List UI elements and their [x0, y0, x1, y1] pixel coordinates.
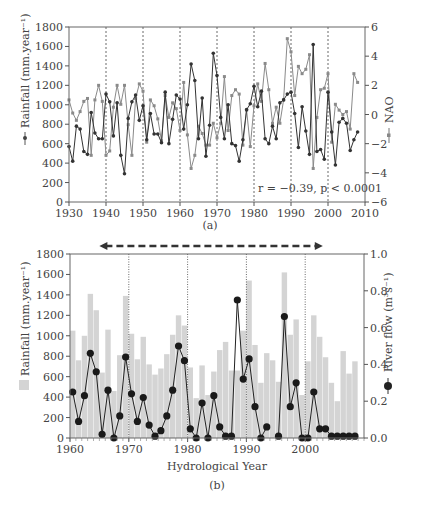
data-point [308, 53, 311, 56]
y2-tick-label: 0 [371, 109, 378, 122]
data-point [249, 145, 252, 148]
data-point [215, 74, 219, 78]
y-tick-label: 600 [43, 371, 64, 384]
data-point [182, 81, 185, 84]
x-tick-label: 1990 [277, 207, 305, 220]
y2-tick-label: 2 [371, 79, 378, 92]
data-point [253, 104, 256, 107]
y-tick-label: 1600 [36, 268, 64, 281]
data-point [140, 394, 147, 401]
data-point [208, 123, 212, 127]
y-tick-label: 1200 [36, 309, 64, 322]
data-point [290, 50, 293, 53]
data-point [167, 116, 170, 119]
rainfall-bar [70, 331, 75, 438]
data-point [240, 376, 247, 383]
data-point [134, 418, 141, 425]
data-point [356, 81, 359, 84]
y2-tick-label: −2 [371, 138, 387, 151]
data-point [204, 155, 208, 159]
rainfall-bar [135, 359, 140, 438]
data-point [246, 355, 253, 362]
arrow-right-head-icon [315, 242, 323, 250]
x-tick-label: 1970 [115, 443, 143, 456]
data-point [304, 129, 308, 133]
data-point [345, 121, 349, 125]
data-point [193, 154, 196, 157]
data-point [93, 131, 97, 135]
rainfall-bars [70, 272, 358, 438]
y-tick-label: 1800 [36, 248, 64, 261]
data-point [149, 112, 153, 116]
y-tick-label: 200 [43, 412, 64, 425]
data-point [297, 65, 300, 68]
rainfall-bar [82, 336, 87, 438]
data-point [251, 403, 258, 410]
data-point [71, 112, 74, 115]
data-point [212, 51, 216, 55]
rainfall-bar [335, 401, 340, 438]
data-point [90, 154, 93, 157]
data-point [234, 296, 241, 303]
rainfall-bar [241, 331, 246, 438]
data-point [315, 150, 319, 154]
data-point [153, 104, 156, 107]
data-point [142, 90, 145, 93]
data-point [300, 105, 304, 109]
data-point [216, 423, 223, 430]
data-point [212, 122, 215, 125]
x-axis-title-b: Hydrological Year [167, 460, 268, 473]
data-point [167, 142, 171, 146]
data-point [116, 412, 123, 419]
data-point [93, 98, 96, 101]
x-tick-label: 1990 [232, 443, 260, 456]
data-point [286, 92, 290, 96]
data-point [126, 117, 130, 121]
data-point [171, 118, 175, 122]
rainfall-bar [76, 360, 81, 438]
y2-tick-label: −6 [371, 196, 387, 209]
data-point [263, 423, 270, 430]
rainfall-bar [317, 337, 322, 438]
rainfall-series-a [67, 43, 359, 176]
data-point [82, 150, 86, 154]
data-point [256, 105, 260, 109]
data-point [345, 110, 348, 113]
data-point [108, 149, 111, 152]
data-point [249, 102, 253, 106]
data-point [122, 353, 129, 360]
x-tick-label: 1980 [240, 207, 268, 220]
data-point [128, 390, 135, 397]
data-point [157, 427, 164, 434]
data-point [274, 137, 278, 141]
data-point [334, 163, 338, 167]
y2-tick-label: 4 [371, 50, 378, 63]
period-arrow [99, 242, 322, 250]
data-point [304, 68, 307, 71]
data-point [115, 101, 119, 105]
data-point [119, 154, 123, 158]
data-point [156, 117, 159, 120]
data-point [267, 88, 270, 91]
data-point [230, 142, 234, 146]
y2-tick-label: 1.0 [370, 248, 388, 261]
data-point [123, 84, 126, 87]
data-point [156, 132, 160, 136]
data-point [175, 93, 179, 97]
data-point [341, 113, 344, 116]
data-point [134, 93, 138, 97]
data-point [227, 129, 230, 132]
data-point [75, 418, 82, 425]
x-axis-a: 193019401950196019701980199020002010 [55, 202, 379, 220]
rainfall-bar [340, 351, 345, 438]
data-point [326, 90, 330, 94]
data-point [349, 128, 352, 131]
figure: 193019401950196019701980199020002010 020… [0, 0, 421, 505]
data-point [278, 101, 282, 105]
y-tick-label: 1400 [35, 60, 63, 73]
data-point [352, 138, 356, 142]
data-point [293, 94, 296, 97]
data-point [108, 100, 112, 104]
data-point [275, 106, 278, 109]
data-point [104, 92, 108, 96]
